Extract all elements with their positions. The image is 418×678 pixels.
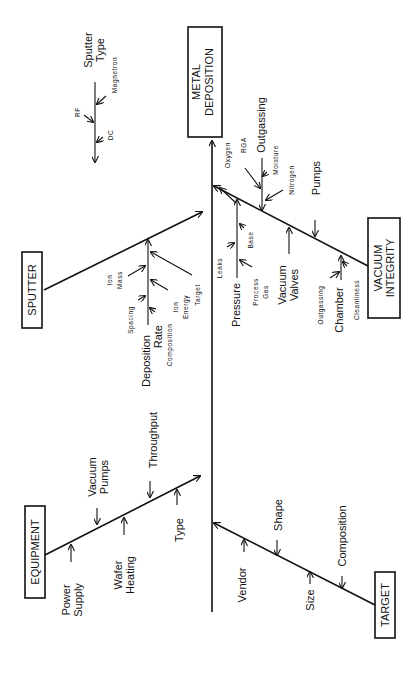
vacuum-pumps-label-1: Vacuum xyxy=(86,457,98,497)
power-supply-label-1: Power xyxy=(60,584,72,616)
ion-energy-arrow xyxy=(151,280,168,290)
dc-arrow xyxy=(97,137,103,142)
deposition-rate-label-2: Rate xyxy=(152,325,164,348)
leaks-label: Leaks xyxy=(216,258,223,278)
cleanliness-label: Cleanliness xyxy=(353,280,360,320)
target-sub-label: Target xyxy=(194,284,202,306)
chamber-outgassing-label: Outgassing xyxy=(317,286,325,325)
rga-arrow xyxy=(245,168,260,188)
ion-energy-label-1: Ion xyxy=(172,302,179,313)
ion-mass-label-1: Ion xyxy=(106,275,113,286)
base-label: Base xyxy=(247,231,254,248)
effect-label-line2: DEPOSITION xyxy=(203,48,215,116)
rga-label: RGA xyxy=(240,137,247,153)
ion-energy-label-2: Energy xyxy=(182,295,190,319)
equipment-label: EQUIPMENT xyxy=(29,519,41,585)
process-gas-label-1: Process xyxy=(252,278,259,306)
sputter-label: SPUTTER xyxy=(26,264,38,315)
throughput-label: Throughput xyxy=(147,412,159,468)
category-vacuum-integrity: VACUUM INTEGRITY Outgassing RGA Moisture… xyxy=(214,97,400,332)
pumps-label: Pumps xyxy=(310,160,322,195)
power-supply-label-2: Supply xyxy=(72,583,84,617)
target-arrow-sputter xyxy=(151,252,192,275)
base-arrow xyxy=(240,224,244,228)
deposition-rate-label-1: Deposition xyxy=(140,335,152,387)
vacuum-label-2: INTEGRITY xyxy=(384,238,396,297)
leaks-arrow xyxy=(227,243,234,247)
fishbone-diagram: METAL DEPOSITION SPUTTER Sputter Type Ma… xyxy=(0,0,418,678)
spacing-label: Spacing xyxy=(127,306,135,334)
wafer-heating-label-1: Wafer xyxy=(112,560,124,589)
cleanliness-arrow xyxy=(343,262,347,266)
moisture-arrow xyxy=(263,172,267,176)
rf-label: RF xyxy=(74,107,81,117)
composition-label: Composition xyxy=(166,324,174,367)
sputter-bone xyxy=(44,212,202,290)
size-label: Size xyxy=(304,589,316,610)
moisture-label: Moisture xyxy=(272,145,279,175)
spacing-arrow xyxy=(138,296,145,300)
nitrogen-arrow xyxy=(266,190,283,200)
type-label: Type xyxy=(173,518,185,542)
equipment-bone xyxy=(45,476,200,555)
vacuum-valves-label-2: Valves xyxy=(288,268,300,301)
chamber-outgassing-arrow xyxy=(330,272,339,278)
target-label: TARGET xyxy=(379,583,391,627)
category-equipment: EQUIPMENT Power Supply Vacuum Pumps Wafe… xyxy=(25,412,200,617)
category-target: TARGET Vendor Shape Size Composition xyxy=(214,499,395,638)
pressure-label: Pressure xyxy=(230,283,242,327)
vacuum-pumps-label-2: Pumps xyxy=(98,459,110,494)
magnetron-label: Magnetron xyxy=(111,57,119,93)
process-gas-label-2: Gas xyxy=(262,285,269,299)
ion-mass-label-2: Mass xyxy=(116,271,123,289)
chamber-label: Chamber xyxy=(333,287,345,333)
composition-arrow xyxy=(150,308,155,312)
sputter-type-label-1: Sputter xyxy=(82,32,94,68)
vacuum-label-1: VACUUM xyxy=(372,245,384,292)
wafer-heating-label-2: Heating xyxy=(124,556,136,594)
vendor-label: Vendor xyxy=(236,567,248,602)
effect-label-line1: METAL xyxy=(190,64,202,100)
rf-arrow xyxy=(84,115,93,122)
nitrogen-label: Nitrogen xyxy=(288,165,296,194)
oxygen-label: Oxygen xyxy=(224,142,232,168)
outgassing-label: Outgassing xyxy=(255,97,267,153)
category-sputter: SPUTTER Sputter Type Magnetron RF DC Dep… xyxy=(22,32,202,387)
sputter-type-label-2: Type xyxy=(94,38,106,62)
ion-mass-arrow xyxy=(128,266,145,276)
effect-box-metal-deposition: METAL DEPOSITION xyxy=(188,27,222,137)
shape-label: Shape xyxy=(272,499,284,531)
vacuum-valves-label-1: Vacuum xyxy=(276,265,288,305)
process-gas-arrow xyxy=(240,260,252,267)
magnetron-arrow xyxy=(97,96,106,104)
composition-label-target: Composition xyxy=(336,505,348,566)
dc-label: DC xyxy=(107,130,114,141)
